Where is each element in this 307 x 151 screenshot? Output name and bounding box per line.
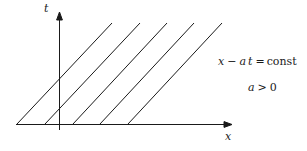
- equation-const-term: const: [267, 55, 297, 68]
- condition-greater-than-operator: >: [258, 81, 267, 94]
- diagram-canvas: [0, 0, 307, 151]
- characteristic-line: [128, 23, 222, 124]
- x-axis-label: x: [225, 131, 231, 142]
- condition-coefficient-a: a: [248, 81, 255, 94]
- equation-var-t: t: [248, 55, 252, 68]
- characteristics-diagram: t x x−at=const a>0: [0, 0, 307, 151]
- characteristic-line: [17, 23, 112, 124]
- equation-var-x: x: [218, 55, 224, 68]
- equation-annotation: x−at=const: [218, 56, 297, 67]
- characteristic-line: [100, 23, 194, 124]
- characteristic-lines-group: [17, 23, 222, 124]
- t-axis-label: t: [44, 3, 48, 14]
- condition-zero-value: 0: [270, 81, 277, 94]
- x-axis-arrowhead: [224, 122, 232, 128]
- equation-minus-operator: −: [227, 55, 236, 68]
- axis-group: [16, 12, 232, 130]
- equation-coefficient-a: a: [239, 55, 246, 68]
- condition-annotation: a>0: [248, 82, 277, 93]
- equation-equals-operator: =: [255, 55, 264, 68]
- t-axis-arrowhead: [57, 12, 63, 20]
- characteristic-line: [73, 23, 167, 124]
